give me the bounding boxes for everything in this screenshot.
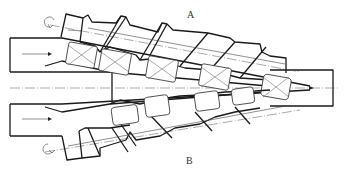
label-screw-a: A: [187, 9, 194, 20]
kneading-blocks-b: [111, 87, 255, 126]
twin-screw-extruder-diagram: A B: [0, 0, 349, 172]
rotation-arrow-b-icon: [43, 144, 55, 154]
inlet-arrow-top-icon: [22, 52, 52, 56]
inlet-arrow-bottom-icon: [22, 117, 52, 121]
screw-b: [43, 87, 300, 160]
outlet-arrow-icon: [309, 86, 314, 90]
label-screw-b: B: [186, 155, 193, 166]
screw-a: [44, 14, 300, 100]
rotation-arrow-a-icon: [44, 17, 54, 28]
